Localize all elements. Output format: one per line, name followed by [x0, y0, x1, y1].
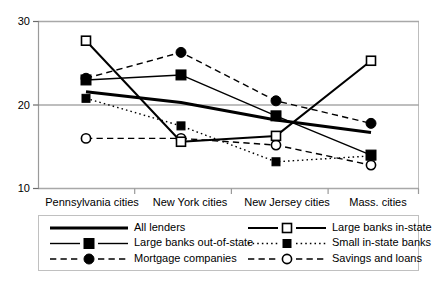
y-tick-label-10: 10	[18, 182, 30, 194]
data-point	[176, 70, 186, 80]
data-point	[81, 75, 91, 85]
data-point	[366, 150, 376, 160]
legend-label: Savings and loans	[332, 252, 422, 264]
line-chart: 30 20 10 Pennsylvania cities New York ci…	[0, 0, 435, 283]
data-point	[367, 56, 376, 65]
data-point	[272, 131, 281, 140]
data-point	[177, 137, 186, 146]
legend-label: Large banks in-state	[332, 221, 432, 233]
legend-label: Small in-state banks	[332, 236, 432, 248]
y-tick-label-30: 30	[18, 15, 30, 27]
data-point	[271, 140, 280, 149]
data-point	[81, 134, 90, 143]
x-category-label-3: Mass. cities	[349, 196, 407, 208]
x-category-label-2: New Jersey cities	[244, 196, 330, 208]
legend-marker-sample	[282, 254, 291, 263]
data-point	[366, 161, 375, 170]
y-tick-label-20: 20	[18, 99, 30, 111]
data-point	[272, 158, 280, 166]
data-point	[176, 47, 186, 57]
data-point	[82, 36, 91, 45]
legend-label: Mortgage companies	[134, 252, 237, 264]
data-point	[82, 94, 90, 102]
legend-label: All lenders	[134, 221, 186, 233]
legend-marker-sample	[84, 254, 94, 264]
x-category-label-1: New York cities	[153, 196, 228, 208]
legend-marker-sample	[283, 224, 292, 233]
x-category-label-0: Pennsylvania cities	[45, 196, 139, 208]
legend-marker-sample	[283, 240, 291, 248]
data-point	[366, 118, 376, 128]
chart-canvas: 30 20 10 Pennsylvania cities New York ci…	[0, 0, 435, 283]
legend-label: Large banks out-of-state	[134, 236, 253, 248]
data-point	[271, 96, 281, 106]
data-point	[177, 122, 185, 130]
legend-marker-sample	[84, 239, 94, 249]
